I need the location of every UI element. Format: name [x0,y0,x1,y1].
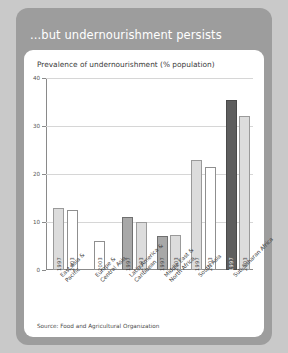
plot-area: 010203040 199720032003199720031997200319… [46,78,253,270]
y-axis-tick-label: 10 [33,219,40,225]
bar: 2003 [239,116,250,270]
screenshot-root: ...but undernourishment persists Prevale… [0,0,288,353]
bar: 1997 [226,100,237,270]
chart-subtitle: Prevalence of undernourishment (% popula… [37,60,215,69]
y-axis-tick-label: 0 [36,267,40,273]
bar-year-label: 1997 [56,257,62,271]
y-axis-tick-label: 20 [33,171,40,177]
bar-series: 1997200320031997200319972003199720031997… [46,78,253,270]
card-title: ...but undernourishment persists [30,28,222,42]
bar-year-label: 1997 [228,257,234,271]
bar: 1997 [53,208,64,270]
source-note: Source: Food and Agricultural Organizati… [37,323,159,329]
y-axis-tick-label: 40 [33,75,40,81]
y-axis-tick-label: 30 [33,123,40,129]
y-axis-tick [42,270,46,271]
bar: 2003 [205,167,216,270]
chart-card: ...but undernourishment persists Prevale… [16,8,272,345]
chart-panel: Prevalence of undernourishment (% popula… [24,50,264,337]
